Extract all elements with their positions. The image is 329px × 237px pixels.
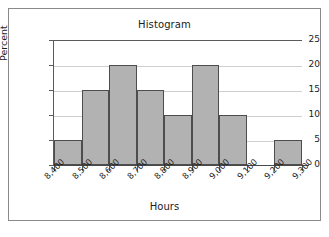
x-axis-title: Hours: [9, 201, 320, 212]
histogram-bar: [82, 90, 110, 165]
bars-layer: [54, 40, 302, 165]
histogram-bar: [137, 90, 165, 165]
histogram-bar: [109, 65, 137, 165]
x-tick-label: 8,400: [42, 157, 66, 181]
y-axis-title: Percent: [0, 25, 9, 61]
chart-title: Histogram: [9, 19, 320, 30]
chart-figure: Histogram Percent 25 20 15 10 5 0 8,: [8, 8, 321, 221]
histogram-bar: [192, 65, 220, 165]
